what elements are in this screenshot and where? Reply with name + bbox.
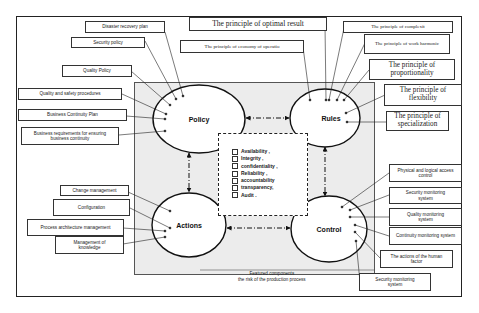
criteria-list: Availability , Integrity , confidentiali… bbox=[232, 148, 278, 199]
policy-label: Policy bbox=[189, 116, 210, 123]
rules-item-box: The principle of specialization bbox=[386, 111, 449, 131]
criterion-item: confidentiality , bbox=[232, 163, 278, 170]
policy-item-box: Quality and safety procedures bbox=[18, 88, 122, 100]
checkbox-icon bbox=[232, 185, 238, 191]
actions-item-box: Configuration bbox=[53, 199, 130, 216]
policy-item-box: Disaster recovery plan bbox=[85, 21, 165, 33]
criterion-item: Audit . bbox=[232, 192, 278, 199]
policy-item-box: Business requirements for ensuring busin… bbox=[21, 127, 119, 145]
actions-item-box: Change management bbox=[60, 185, 129, 196]
rules-item-box: The principle of proportionality bbox=[369, 59, 455, 80]
checkbox-icon bbox=[232, 156, 238, 162]
checkbox-icon bbox=[232, 192, 238, 198]
policy-item-box: Security policy bbox=[71, 37, 145, 48]
rules-item-box: The principle of optimal result bbox=[189, 17, 327, 31]
control-item-box: Continuity monitoring system bbox=[389, 227, 462, 245]
rules-label: Rules bbox=[321, 115, 340, 122]
rules-item-box: The principle of complexit bbox=[343, 21, 453, 33]
control-item-box: The actions of the human factor bbox=[380, 250, 453, 268]
control-item-box: Quality monitoring system bbox=[389, 208, 462, 226]
criterion-item: accountability bbox=[232, 177, 278, 184]
policy-item-box: Business Continuity Plan bbox=[18, 109, 127, 121]
actions-label: Actions bbox=[176, 222, 202, 229]
caption-subtitle: the risk of the production process bbox=[238, 277, 306, 283]
diagram: Availability , Integrity , confidentiali… bbox=[0, 0, 479, 313]
checkbox-icon bbox=[232, 171, 238, 177]
control-label: Control bbox=[317, 226, 342, 233]
checkbox-icon bbox=[232, 149, 238, 155]
rules-item-box: The principle of work harmonic bbox=[364, 34, 450, 54]
control-item-box: Security monitoring system bbox=[359, 273, 431, 291]
checkbox-icon bbox=[232, 163, 238, 169]
checkbox-icon bbox=[232, 178, 238, 184]
rules-item-box: The principle of economy of operatio bbox=[180, 40, 304, 53]
criterion-item: transparency, bbox=[232, 184, 278, 191]
criterion-item: Integrity , bbox=[232, 155, 278, 162]
policy-item-box: Quality Policy bbox=[62, 65, 132, 77]
actions-item-box: Management of knowledge bbox=[55, 236, 124, 254]
control-item-box: Physical and logical access control bbox=[389, 164, 462, 182]
criterion-item: Availability , bbox=[232, 148, 278, 155]
actions-item-box: Process architecture management bbox=[27, 219, 124, 236]
criterion-item: Reliability , bbox=[232, 170, 278, 177]
rules-item-box: The principle of flexibility bbox=[384, 84, 462, 106]
caption: Featured components the risk of the prod… bbox=[238, 271, 306, 283]
control-item-box: Security monitoring system bbox=[389, 187, 462, 204]
